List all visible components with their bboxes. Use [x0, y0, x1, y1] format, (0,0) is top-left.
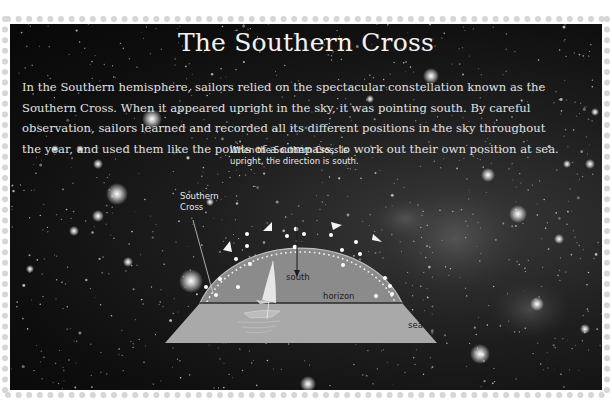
bright-star	[106, 183, 128, 205]
label-south: south	[286, 272, 310, 283]
intro-line: observation, sailors learned and recorde…	[22, 118, 596, 139]
callout-line: When the Southern Cross is	[230, 145, 359, 156]
sea-plane	[165, 303, 437, 343]
callout-line: upright, the direction is south.	[230, 156, 359, 167]
callout-upright-south: When the Southern Cross is upright, the …	[230, 145, 359, 167]
page-title: The Southern Cross	[10, 28, 602, 57]
label-line: Southern	[180, 191, 219, 202]
label-southern-cross: Southern Cross	[180, 191, 219, 213]
night-sky-panel: The Southern Cross In the Southern hemis…	[10, 24, 602, 390]
label-sea: sea	[408, 320, 423, 331]
label-horizon: horizon	[323, 291, 355, 302]
southern-cross-figure: The Southern Cross In the Southern hemis…	[0, 0, 612, 407]
intro-line: In the Southern hemisphere, sailors reli…	[22, 77, 596, 98]
bright-star	[179, 269, 203, 293]
intro-line: Southern Cross. When it appeared upright…	[22, 98, 596, 119]
label-line: Cross	[180, 202, 219, 213]
